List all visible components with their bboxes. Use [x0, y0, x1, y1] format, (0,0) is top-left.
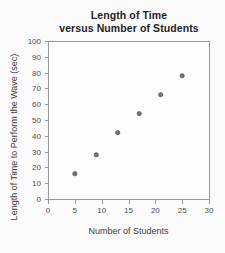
y-tick-label: 10	[32, 179, 41, 188]
y-tick-label: 70	[32, 84, 41, 93]
x-tick-label: 0	[46, 206, 51, 215]
plot-frame	[49, 42, 210, 200]
data-point	[180, 74, 184, 78]
data-point	[137, 112, 141, 116]
scatter-plot-figure: Length of Time versus Number of Students…	[0, 0, 225, 253]
x-tick-label: 5	[73, 206, 78, 215]
x-tick-label: 10	[97, 206, 106, 215]
x-tick-label: 15	[124, 206, 133, 215]
y-tick-label: 60	[32, 100, 41, 109]
y-tick-label: 40	[32, 132, 41, 141]
x-tick-label: 25	[178, 206, 187, 215]
y-tick-label: 0	[37, 195, 42, 204]
x-tick-label: 30	[205, 206, 214, 215]
scatter-plot-canvas: 0510152025300102030405060708090100	[0, 0, 225, 253]
data-point	[73, 172, 77, 176]
y-tick-label: 20	[32, 163, 41, 172]
x-tick-label: 20	[151, 206, 160, 215]
y-tick-label: 90	[32, 53, 41, 62]
data-point	[116, 131, 120, 135]
y-tick-label: 80	[32, 69, 41, 78]
data-point	[159, 93, 163, 97]
y-tick-label: 30	[32, 148, 41, 157]
y-tick-label: 100	[28, 37, 42, 46]
x-axis-label: Number of Students	[48, 226, 209, 236]
data-point	[94, 153, 98, 157]
y-tick-label: 50	[32, 116, 41, 125]
